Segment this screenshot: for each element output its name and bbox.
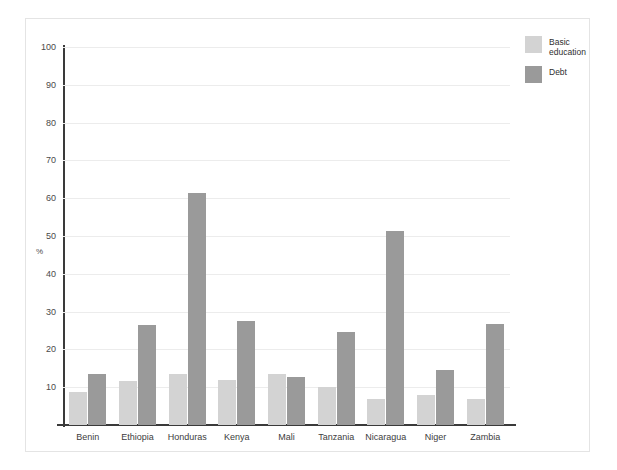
bar-honduras-debt: [188, 193, 206, 425]
y-tick-label-100: 100: [41, 42, 56, 52]
bar-zambia-education: [467, 399, 485, 425]
bar-tanzania-education: [318, 387, 336, 425]
y-tick-label-60: 60: [46, 193, 56, 203]
chart-page: 100908070605040302010 % BeninEthiopiaHon…: [0, 0, 617, 470]
x-tick-label-niger: Niger: [425, 432, 447, 442]
legend-label-debt: Debt: [549, 66, 567, 77]
x-tick-label-benin: Benin: [76, 432, 99, 442]
bar-ethiopia-debt: [138, 325, 156, 425]
bar-niger-education: [417, 395, 435, 425]
bar-benin-education: [69, 392, 87, 425]
y-tick-label-90: 90: [46, 80, 56, 90]
bar-benin-debt: [88, 374, 106, 425]
gridline-30: [63, 312, 510, 313]
gridline-40: [63, 274, 510, 275]
gridline-60: [63, 198, 510, 199]
bar-mali-education: [268, 374, 286, 425]
x-tick-label-ethiopia: Ethiopia: [121, 432, 154, 442]
legend-label-education: Basic education: [549, 36, 586, 57]
bar-zambia-debt: [486, 324, 504, 425]
gridline-20: [63, 349, 510, 350]
bar-nicaragua-debt: [386, 231, 404, 425]
gridline-50: [63, 236, 510, 237]
bar-mali-debt: [287, 377, 305, 425]
bar-honduras-education: [169, 374, 187, 425]
x-tick-label-tanzania: Tanzania: [318, 432, 354, 442]
bar-kenya-debt: [237, 321, 255, 425]
plot-area: [63, 47, 510, 425]
bar-nicaragua-education: [367, 399, 385, 425]
bar-niger-debt: [436, 370, 454, 425]
legend-swatch-debt: [525, 66, 542, 83]
x-tick-label-zambia: Zambia: [470, 432, 500, 442]
gridline-100: [63, 47, 510, 48]
legend-item-debt: Debt: [525, 66, 605, 83]
x-tick-label-nicaragua: Nicaragua: [365, 432, 406, 442]
gridline-80: [63, 123, 510, 124]
chart-legend: Basic educationDebt: [525, 36, 605, 92]
gridline-90: [63, 85, 510, 86]
y-tick-label-80: 80: [46, 118, 56, 128]
bar-tanzania-debt: [337, 332, 355, 425]
y-axis-title: %: [36, 247, 43, 256]
x-tick-label-honduras: Honduras: [168, 432, 207, 442]
gridline-70: [63, 160, 510, 161]
bar-kenya-education: [218, 380, 236, 425]
y-tick-label-20: 20: [46, 344, 56, 354]
x-tick-label-mali: Mali: [278, 432, 295, 442]
legend-item-education: Basic education: [525, 36, 605, 57]
y-tick-label-70: 70: [46, 155, 56, 165]
legend-swatch-education: [525, 36, 542, 53]
bar-ethiopia-education: [119, 381, 137, 425]
y-tick-label-10: 10: [46, 382, 56, 392]
x-tick-label-kenya: Kenya: [224, 432, 250, 442]
y-tick-label-40: 40: [46, 269, 56, 279]
y-tick-label-50: 50: [46, 231, 56, 241]
y-tick-label-30: 30: [46, 307, 56, 317]
y-axis-tick-labels: 100908070605040302010: [0, 47, 56, 425]
